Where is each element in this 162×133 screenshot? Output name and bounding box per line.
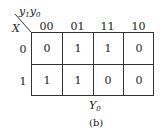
kmap-cell: 1 bbox=[63, 33, 93, 64]
output-variable-label: Y0 bbox=[89, 100, 101, 115]
kmap-cell: 0 bbox=[32, 33, 62, 64]
row-header: 1 bbox=[18, 75, 28, 88]
kmap-grid: 0 1 1 0 1 1 0 0 bbox=[31, 32, 154, 96]
kmap-cell: 1 bbox=[93, 33, 123, 64]
kmap-cell: 1 bbox=[32, 65, 62, 96]
kmap-cell: 0 bbox=[124, 33, 154, 64]
row-header: 0 bbox=[18, 43, 28, 56]
figure-caption: (b) bbox=[89, 117, 103, 128]
row-variable-label: X bbox=[12, 23, 20, 34]
kmap-cell: 1 bbox=[63, 65, 93, 96]
column-variables-label: y1y0 bbox=[19, 6, 40, 21]
kmap-cell: 0 bbox=[93, 65, 123, 96]
kmap-cell: 0 bbox=[124, 65, 154, 96]
